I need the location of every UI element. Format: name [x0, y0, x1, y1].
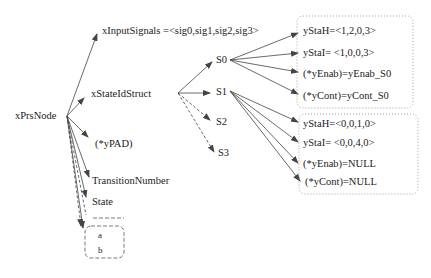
state-s1: S1	[216, 86, 227, 98]
s0-stai: yStaI= <1,0,0,3>	[303, 47, 374, 59]
s0-stah: yStaH=<1,2,0,3>	[303, 25, 376, 37]
field-transition-number: TransitionNumber	[92, 175, 169, 187]
field-state: State	[92, 196, 113, 208]
edge-stateid-s0	[178, 62, 212, 93]
diagram-canvas: xPrsNode xInputSignals =<sig0,sig1,sig2,…	[0, 0, 431, 278]
edge-root-transition	[67, 116, 89, 177]
edge-root-inputsignals	[67, 34, 97, 116]
state-s3: S3	[218, 147, 229, 159]
field-ypad: (*yPAD)	[95, 138, 133, 150]
s1-ycont: (*yCont)=NULL	[305, 176, 377, 188]
edge-root-ypad	[67, 116, 88, 137]
edge-root-box-dashed	[67, 116, 81, 226]
state-s2: S2	[216, 116, 227, 128]
edge-stateid-s3	[178, 93, 214, 152]
pad-item-a: a	[98, 229, 102, 241]
pad-item-b: b	[98, 244, 103, 256]
field-state-id-struct: xStateIdStruct	[91, 88, 151, 100]
s0-ycont: (*yCont)=yCont_S0	[303, 90, 389, 102]
s0-yenab: (*yEnab)=yEnab_S0	[303, 68, 391, 80]
s1-stah: yStaH=<0,0,1,0>	[303, 118, 376, 130]
state-s0: S0	[216, 54, 227, 66]
edge-root-stateid	[67, 98, 84, 116]
edge-root-dashed	[67, 116, 86, 215]
field-input-signals: xInputSignals =<sig0,sig1,sig2,sig3>	[102, 25, 259, 37]
root-node: xPrsNode	[15, 110, 56, 122]
s1-yenab: (*yEnab)=NULL	[303, 158, 376, 170]
edge-stateid-s2	[178, 93, 210, 120]
s1-stai: yStaI= <0,0,4,0>	[303, 137, 374, 149]
pad-box	[85, 226, 124, 258]
